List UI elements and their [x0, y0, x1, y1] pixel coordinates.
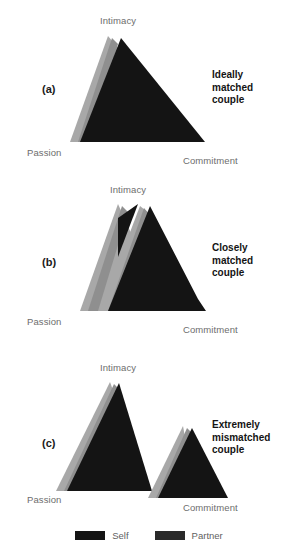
- legend-swatch-partner: [155, 531, 185, 540]
- panel-a-caption-line-2: matched: [212, 82, 253, 95]
- panel-b-caption: Closely matched couple: [212, 242, 253, 280]
- panel-c-label-passion: Passion: [27, 494, 62, 505]
- panel-b-label-commitment: Commitment: [183, 324, 238, 335]
- panel-a-caption-line-1: Ideally: [212, 69, 253, 82]
- panel-b: (b) Intimacy Passion Commitment Closely …: [0, 178, 298, 358]
- panel-c-caption-line-3: couple: [212, 444, 270, 457]
- panel-a-letter: (a): [42, 83, 55, 95]
- panel-b-caption-line-2: matched: [212, 255, 253, 268]
- panel-b-caption-line-1: Closely: [212, 242, 253, 255]
- legend-label-partner: Partner: [192, 530, 223, 541]
- panel-b-triangles: [0, 178, 298, 358]
- panel-c-label-commitment: Commitment: [183, 502, 238, 513]
- panel-a-label-passion: Passion: [27, 147, 62, 158]
- panel-c-label-intimacy: Intimacy: [100, 362, 136, 373]
- panel-b-letter: (b): [42, 256, 56, 268]
- legend-item-partner: Partner: [155, 530, 223, 541]
- legend-swatch-self: [75, 531, 105, 540]
- panel-a-caption: Ideally matched couple: [212, 69, 253, 107]
- panel-c: (c) Intimacy Passion Commitment Extremel…: [0, 358, 298, 516]
- legend-item-self: Self: [75, 530, 128, 541]
- legend: Self Partner: [0, 524, 298, 546]
- panel-b-label-intimacy: Intimacy: [110, 184, 146, 195]
- panel-c-letter: (c): [42, 437, 55, 449]
- panel-c-caption: Extremely mismatched couple: [212, 419, 270, 457]
- panel-c-caption-line-2: mismatched: [212, 432, 270, 445]
- legend-label-self: Self: [112, 530, 128, 541]
- panel-b-label-passion: Passion: [27, 316, 62, 327]
- panel-c-caption-line-1: Extremely: [212, 419, 270, 432]
- panel-a-label-commitment: Commitment: [183, 155, 238, 166]
- panel-a: (a) Intimacy Passion Commitment Ideally …: [0, 0, 298, 178]
- panel-a-label-intimacy: Intimacy: [100, 15, 136, 26]
- panel-a-caption-line-3: couple: [212, 94, 253, 107]
- panel-b-caption-line-3: couple: [212, 267, 253, 280]
- triangular-love-figure: (a) Intimacy Passion Commitment Ideally …: [0, 0, 298, 554]
